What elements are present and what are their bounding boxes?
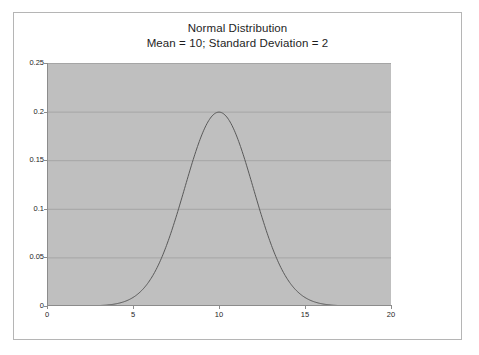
chart-title-main: Normal Distribution (14, 21, 461, 36)
y-axis-tick-mark (44, 209, 48, 210)
chart-container: Normal Distribution Mean = 10; Standard … (13, 12, 462, 340)
y-axis-tick-mark (44, 160, 48, 161)
y-axis-tick-label: 0.2 (16, 108, 44, 116)
x-axis-tick-mark (391, 305, 392, 309)
x-axis-tick-mark (47, 305, 48, 309)
x-axis-tick-mark (133, 305, 134, 309)
x-axis-tick-label: 0 (45, 310, 49, 319)
x-axis-tick-mark (219, 305, 220, 309)
y-axis-line (47, 63, 48, 306)
x-axis-tick-label: 10 (215, 310, 223, 319)
chart-title-subtitle: Mean = 10; Standard Deviation = 2 (14, 36, 461, 51)
y-axis-tick-mark (44, 63, 48, 64)
y-axis-tick-label: 0 (16, 302, 44, 310)
normal-distribution-curve (47, 63, 391, 306)
y-axis-tick-mark (44, 257, 48, 258)
y-axis-tick-label: 0.15 (16, 156, 44, 164)
y-axis-tick-mark (44, 112, 48, 113)
y-axis-tick-label: 0.25 (16, 59, 44, 67)
x-axis-tick-label: 15 (301, 310, 309, 319)
chart-title: Normal Distribution Mean = 10; Standard … (14, 21, 461, 51)
x-axis-labels: 05101520 (47, 310, 392, 324)
y-axis-labels: 00.050.10.150.20.25 (14, 63, 44, 306)
x-axis-tick-label: 20 (387, 310, 395, 319)
plot-area (47, 63, 391, 306)
y-axis-tick-label: 0.05 (16, 253, 44, 261)
curve-path (47, 112, 391, 306)
y-axis-tick-label: 0.1 (16, 205, 44, 213)
x-axis-tick-label: 5 (131, 310, 135, 319)
x-axis-tick-mark (305, 305, 306, 309)
